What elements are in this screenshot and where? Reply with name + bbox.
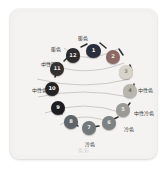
zone-label-neutral-warm: 中性暖色 xyxy=(41,62,61,67)
wheel-node-12[interactable]: 12 xyxy=(66,48,80,62)
zone-label-neutral-right: 中性色 xyxy=(138,88,153,93)
wheel-node-4[interactable]: 4 xyxy=(123,84,137,98)
watermark-text: 色彩 xyxy=(0,146,167,153)
wheel-node-2[interactable]: 2 xyxy=(106,50,120,64)
screenshot-root: 123456789101112 暖色暖色中性暖色中性色中性色中性冷色冷色冷色 色… xyxy=(0,0,167,175)
wheel-node-8[interactable]: 8 xyxy=(64,115,78,129)
zone-label-neutral-cool: 中性冷色 xyxy=(134,111,154,116)
wheel-node-5[interactable]: 5 xyxy=(116,103,130,117)
wheel-node-9[interactable]: 9 xyxy=(51,101,65,115)
wheel-node-3[interactable]: 3 xyxy=(119,65,132,78)
zone-label-warm-top: 暖色 xyxy=(78,36,88,41)
zone-label-warm-upper-left: 暖色 xyxy=(51,47,61,52)
zone-label-neutral-left: 中性色 xyxy=(32,88,47,93)
zone-label-cool-lower-right: 冷色 xyxy=(124,127,134,132)
wheel-node-6[interactable]: 6 xyxy=(102,116,116,130)
wheel-node-1[interactable]: 1 xyxy=(86,44,100,58)
wheel-node-7[interactable]: 7 xyxy=(82,121,96,135)
diagram-canvas xyxy=(10,9,157,159)
color-wheel-diagram: 123456789101112 暖色暖色中性暖色中性色中性色中性冷色冷色冷色 xyxy=(10,9,157,159)
